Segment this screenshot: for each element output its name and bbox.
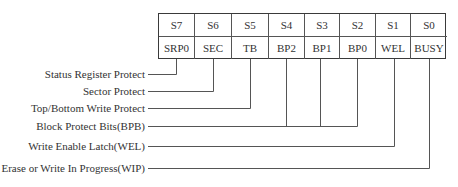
label-top-bottom-write-protect: Top/Bottom Write Protect: [31, 102, 145, 114]
connector-srp0: [148, 59, 177, 75]
label-status-register-protect: Status Register Protect: [45, 68, 145, 80]
connector-bpb: [148, 59, 358, 127]
label-write-enable-latch: Write Enable Latch(WEL): [28, 140, 145, 152]
label-sector-protect: Sector Protect: [83, 85, 145, 97]
connector-tb: [148, 59, 251, 109]
label-erase-write-in-progress: Erase or Write In Progress(WIP): [1, 162, 145, 174]
connector-sec: [148, 59, 214, 92]
label-block-protect-bits: Block Protect Bits(BPB): [36, 120, 145, 132]
connector-busy: [148, 59, 430, 169]
connector-lines: [0, 0, 458, 187]
